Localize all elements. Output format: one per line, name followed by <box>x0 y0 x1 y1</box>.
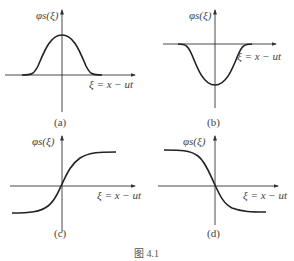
panel-a: φs(ξ) ξ = x − ut (a) <box>5 9 135 129</box>
panel-c: φs(ξ) ξ = x − ut (c) <box>10 135 142 240</box>
panel-d: φs(ξ) ξ = x − ut (d) <box>158 135 288 240</box>
x-label: ξ = x − ut <box>237 50 282 63</box>
x-label: ξ = x − ut <box>89 78 134 91</box>
panel-b: φs(ξ) ξ = x − ut (b) <box>163 9 282 129</box>
panel-label: (d) <box>207 227 220 240</box>
x-label: ξ = x − ut <box>243 189 288 202</box>
figure-caption: 图 4.1 <box>134 248 159 259</box>
y-label: φs(ξ) <box>36 9 59 22</box>
panel-label: (b) <box>207 116 220 129</box>
panel-label: (a) <box>54 116 67 129</box>
y-label: φs(ξ) <box>32 135 55 148</box>
panel-label: (c) <box>54 227 67 240</box>
x-label: ξ = x − ut <box>97 189 142 202</box>
y-label: φs(ξ) <box>183 135 206 148</box>
figure-4-1: φs(ξ) ξ = x − ut (a) φs(ξ) ξ = x − ut (b… <box>0 0 294 261</box>
y-label: φs(ξ) <box>189 9 212 22</box>
curve-kink-increasing <box>12 152 116 213</box>
